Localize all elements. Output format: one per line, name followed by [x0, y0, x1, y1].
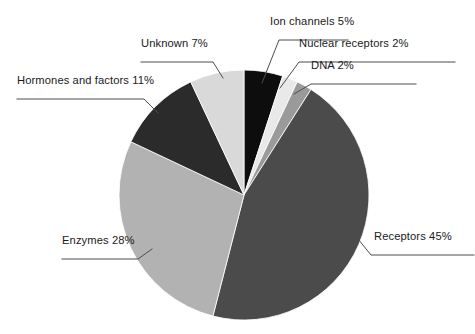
pie-slices-group: [119, 70, 369, 320]
label-dna: DNA 2%: [311, 59, 354, 72]
pie-chart-canvas: [0, 0, 475, 334]
label-enzymes: Enzymes 28%: [62, 234, 135, 247]
label-hormones-and-factors: Hormones and factors 11%: [17, 74, 154, 87]
label-receptors: Receptors 45%: [374, 230, 452, 243]
leader-line-hormones: [17, 99, 158, 113]
label-nuclear-receptors: Nuclear receptors 2%: [299, 37, 409, 50]
label-unknown: Unknown 7%: [141, 37, 208, 50]
label-ion-channels: Ion channels 5%: [270, 15, 354, 28]
pie-chart-figure: Ion channels 5% Nuclear receptors 2% DNA…: [0, 0, 475, 334]
